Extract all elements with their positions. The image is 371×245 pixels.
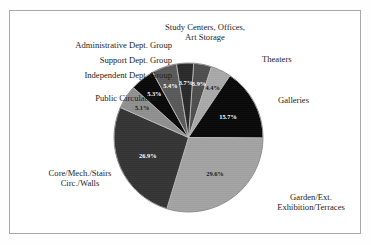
pie-slice-percent: 29.6% [206,170,224,177]
pie-slice-percent: 15.7% [219,113,237,120]
label-core-mech: Core/Mech./Stairs Circ./Walls [22,168,138,188]
label-garden: Garden/Ext. Exhibition/Terraces [259,192,363,212]
label-public-circulation: Public Circulation [32,93,158,103]
pie-slice-percent: 4.4% [205,84,219,91]
pie-slice-percent: 3.9% [192,80,206,87]
pie-chart-figure: 3.9%4.4%15.7%29.6%26.9%5.1%5.3%5.4%3.7% … [0,0,371,245]
label-galleries: Galleries [278,95,358,105]
pie-slice-percent: 5.1% [135,104,149,111]
pie-slice-percent: 3.7% [179,79,193,86]
label-theaters: Theaters [262,54,342,64]
label-independent: Independent Dept. Group [20,70,172,80]
pie-slice-percent: 5.4% [163,82,177,89]
label-administrative: Administrative Dept. Group [32,40,172,50]
pie-slice-percent: 26.9% [139,152,157,159]
label-support: Support Dept. Group [32,55,172,65]
